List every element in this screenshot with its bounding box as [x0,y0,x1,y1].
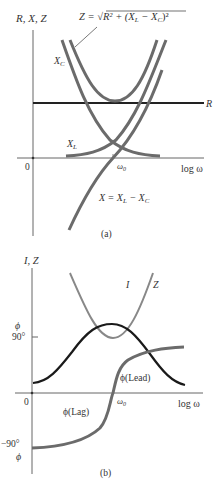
panel-b-origin-label: 0 [24,397,29,407]
lag-label: ϕ(Lag) [63,407,89,418]
panel-a: R, X, Z Z = √R² + (XL − XC)² XC XL R 0 ω… [15,11,212,240]
deg90-label: 90° [12,332,26,342]
panel-a-caption: (a) [101,229,112,240]
phi-curve [32,347,184,448]
i-curve [33,324,185,385]
phi-top-label: ϕ [15,320,20,331]
z-formula: Z = √R² + (XL − XC)² [79,11,169,24]
z-curve-b [70,273,153,338]
i-label: I [125,279,130,290]
panel-a-x-axis-label: log ω [181,163,203,174]
panel-a-omega0-label: ω0 [117,161,126,172]
r-label: R [205,98,212,109]
z-formula-pointer [75,27,97,47]
xl-label: XL [66,138,77,151]
panel-b: I, Z ϕ 90° I Z ϕ(Lead) ϕ(Lag) 0 ω0 log ω… [1,255,203,479]
panel-b-origin-dot [31,392,34,395]
z-label-b: Z [153,279,159,290]
panel-a-origin-dot [32,157,35,160]
panel-b-y-axis-label: I, Z [23,255,39,266]
panel-a-y-axis-label: R, X, Z [15,12,47,24]
panel-b-omega0-label: ω0 [117,396,126,407]
neg90-label: −90° [1,439,20,449]
x-equation-label: X = XL − XC [98,192,150,205]
lead-label: ϕ(Lead) [120,373,150,384]
panel-b-x-axis-label: log ω [178,398,200,409]
phi-bottom-label: ϕ [16,451,21,462]
panel-a-origin-label: 0 [25,162,30,172]
panel-b-caption: (b) [100,468,111,479]
xc-label: XC [53,55,65,68]
resonance-diagram: R, X, Z Z = √R² + (XL − XC)² XC XL R 0 ω… [0,0,222,492]
